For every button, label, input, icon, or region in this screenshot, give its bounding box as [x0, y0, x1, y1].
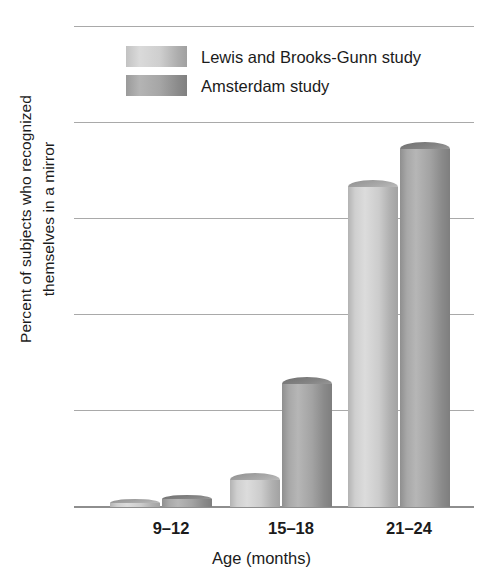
- legend: Lewis and Brooks-Gunn study Amsterdam st…: [126, 42, 421, 100]
- bar-body: [230, 480, 280, 507]
- bar-amsterdam-15-18: [282, 377, 332, 507]
- bar-body: [282, 384, 332, 507]
- x-tick-label-15-18: 15–18: [231, 519, 351, 537]
- y-axis-title-line-2: themselves in a mirror: [37, 142, 60, 297]
- x-axis-title: Age (months): [0, 549, 477, 567]
- gridline-80: [74, 122, 474, 123]
- gridline-100: [74, 26, 474, 27]
- legend-item-lewis: Lewis and Brooks-Gunn study: [126, 42, 421, 71]
- bar-lewis-9-12: [110, 499, 160, 507]
- x-tick-label-9-12: 9–12: [111, 519, 231, 537]
- bar-body: [400, 149, 450, 507]
- legend-item-amsterdam: Amsterdam study: [126, 71, 421, 100]
- bar-lewis-15-18: [230, 473, 280, 507]
- y-axis-title: Percent of subjects who recognized thems…: [11, 59, 63, 379]
- bar-body: [110, 503, 160, 507]
- legend-label-lewis: Lewis and Brooks-Gunn study: [201, 48, 421, 66]
- x-tick-label-21-24: 21–24: [349, 519, 469, 537]
- bar-amsterdam-21-24: [400, 142, 450, 507]
- legend-swatch-icon-lewis: [126, 46, 187, 67]
- bar-body: [348, 187, 398, 507]
- legend-swatch-icon-amsterdam: [126, 75, 187, 96]
- bar-amsterdam-9-12: [162, 495, 212, 507]
- bar-body: [162, 499, 212, 507]
- bar-lewis-21-24: [348, 180, 398, 507]
- y-axis-title-line-1: Percent of subjects who recognized: [14, 95, 37, 343]
- legend-label-amsterdam: Amsterdam study: [201, 77, 329, 95]
- x-axis-title-text: Age (months): [166, 549, 311, 567]
- bar-chart-figure: Percent of subjects who recognized thems…: [0, 0, 477, 577]
